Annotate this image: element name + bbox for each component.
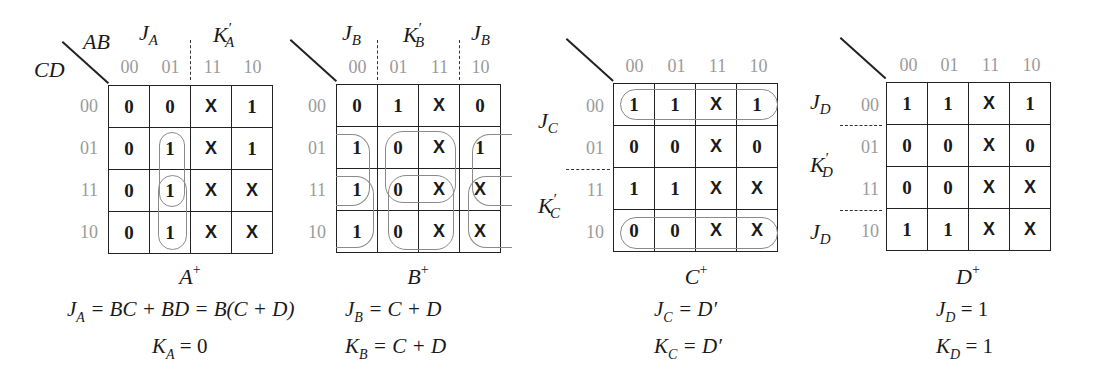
kmap-c-row-00: 00 <box>574 96 604 117</box>
kmap-b-col-11: 11 <box>419 57 460 78</box>
cell: 1 <box>887 83 928 125</box>
kmap-d-row-11: 11 <box>849 179 879 200</box>
kmap-b-title: B+ <box>358 262 478 290</box>
cell: 0 <box>1010 125 1051 167</box>
kmap-c-eq-j: JC = D′ <box>654 297 717 326</box>
kmap-a-col-10: 10 <box>232 57 273 78</box>
kmap-d-region-divider-top <box>840 125 882 126</box>
kmap-d-row-00: 00 <box>849 95 879 116</box>
cell: 1 <box>378 85 419 127</box>
kmap-b-region-kb: K′B <box>403 20 424 51</box>
kmap-a-col-00: 00 <box>109 57 150 78</box>
kmap-c-region-kc: K′C <box>538 191 560 222</box>
cell: X <box>191 128 232 170</box>
kmap-c-row-01: 01 <box>574 138 604 159</box>
kmap-b-region-jb-left: JB <box>342 20 361 49</box>
kmap-d-col-11: 11 <box>970 55 1011 76</box>
cell: 0 <box>655 126 696 168</box>
cell: X <box>191 212 232 254</box>
cell: X <box>191 170 232 212</box>
kmap-c-col-01: 01 <box>656 56 697 77</box>
kmap-a-region-ja: JA <box>139 20 158 49</box>
kmap-a-row-var: CD <box>34 57 65 83</box>
cell: 1 <box>232 86 273 128</box>
cell: X <box>1010 209 1051 251</box>
cell: X <box>191 86 232 128</box>
kmap-d-row-01: 01 <box>849 137 879 158</box>
cell: X <box>969 125 1010 167</box>
cell: 1 <box>614 168 655 210</box>
kmap-d-col-10: 10 <box>1011 55 1052 76</box>
cell: 0 <box>109 212 150 254</box>
kmap-b-region-jb-right: JB <box>471 20 490 49</box>
kmap-b-col-00: 00 <box>337 57 378 78</box>
kmap-b-row-11: 11 <box>296 180 326 201</box>
kmap-a-row-01: 01 <box>68 138 98 159</box>
kmap-c-col-00: 00 <box>614 56 655 77</box>
kmap-d-eq-k: KD = 1 <box>936 334 993 363</box>
cell: 0 <box>887 125 928 167</box>
cell: X <box>232 212 273 254</box>
kmap-c-col-10: 10 <box>738 56 779 77</box>
kmap-c-col-11: 11 <box>697 56 738 77</box>
kmap-b-loop-c-right <box>468 176 512 248</box>
kmap-c-loop-row10 <box>620 217 778 249</box>
kmap-b-col-01: 01 <box>378 57 419 78</box>
cell: X <box>969 83 1010 125</box>
kmap-b-row-00: 00 <box>296 96 326 117</box>
cell: 1 <box>655 168 696 210</box>
kmap-a-region-ka: K′A <box>213 20 234 51</box>
cell: X <box>737 168 778 210</box>
kmap-b-corner-diagonal <box>290 39 337 82</box>
cell: 0 <box>737 126 778 168</box>
kmap-c-region-jc: JC <box>538 108 558 137</box>
cell: 1 <box>232 128 273 170</box>
kmap-a-eq-k: KA = 0 <box>152 334 207 363</box>
kmap-a-row-00: 00 <box>68 96 98 117</box>
kmap-c-title: C+ <box>636 262 756 290</box>
cell: X <box>696 168 737 210</box>
kmap-b-eq-j: JB = C + D <box>345 297 441 326</box>
cell: 0 <box>337 85 378 127</box>
kmap-b-eq-k: KB = C + D <box>345 334 446 363</box>
cell: X <box>419 85 460 127</box>
cell: 0 <box>460 85 501 127</box>
kmap-c-row-11: 11 <box>574 180 604 201</box>
kmap-c-loop-row00 <box>620 89 778 120</box>
kmap-c-corner-diagonal <box>566 38 614 81</box>
kmap-a-col-11: 11 <box>192 57 233 78</box>
kmap-b-col-10: 10 <box>460 57 501 78</box>
kmap-b-loop-c-left <box>336 176 374 248</box>
kmap-a-col-01: 01 <box>150 57 191 78</box>
kmap-d-region-jd-bottom: JD <box>810 219 831 248</box>
kmap-a-eq-j: JA = BC + BD = B(C + D) <box>67 297 294 326</box>
cell: 0 <box>928 125 969 167</box>
kmap-d-region-kd: K′D <box>810 150 833 181</box>
kmap-a-grid: 00X1 01X1 01XX 01XX <box>108 85 273 254</box>
kmap-b-row-10: 10 <box>296 222 326 243</box>
cell: 0 <box>109 170 150 212</box>
kmap-a-loop-bd <box>158 175 187 250</box>
cell: 0 <box>928 167 969 209</box>
kmap-d-grid: 11X1 00X0 00XX 11XX <box>886 82 1051 251</box>
kmap-b-row-01: 01 <box>296 138 326 159</box>
cell: 0 <box>887 167 928 209</box>
kmap-a-row-10: 10 <box>68 222 98 243</box>
cell: X <box>696 126 737 168</box>
kmap-d-title: D+ <box>908 262 1028 290</box>
kmap-a-row-11: 11 <box>68 180 98 201</box>
kmap-d-corner-diagonal <box>840 37 886 79</box>
kmap-a-col-var: AB <box>83 29 110 55</box>
kmap-d-region-jd-top: JD <box>810 89 831 118</box>
cell: X <box>969 167 1010 209</box>
kmap-d-col-00: 00 <box>888 55 929 76</box>
kmap-d-col-01: 01 <box>929 55 970 76</box>
kmap-d-eq-j: JD = 1 <box>936 297 988 326</box>
cell: 0 <box>109 128 150 170</box>
cell: 1 <box>887 209 928 251</box>
kmap-a-title: A+ <box>130 262 250 290</box>
kmap-c-region-divider <box>566 169 610 170</box>
cell: X <box>232 170 273 212</box>
cell: 0 <box>614 126 655 168</box>
cell: 1 <box>928 209 969 251</box>
